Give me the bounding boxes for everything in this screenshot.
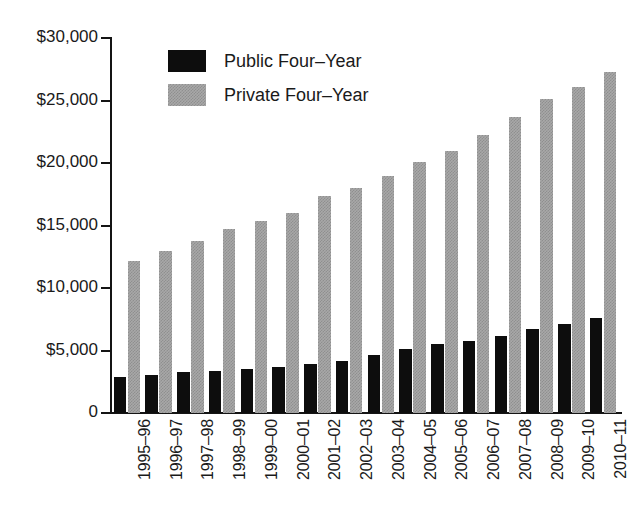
- y-tick-label-5000: $5,000: [0, 340, 98, 360]
- legend-label-private: Private Four–Year: [224, 85, 368, 106]
- y-tick-25000: [101, 100, 111, 102]
- bar-private-2008–09: [540, 99, 553, 413]
- bar-public-2010–11: [590, 318, 603, 413]
- y-tick-label-15000: $15,000: [0, 215, 98, 235]
- legend-item-private: Private Four–Year: [168, 78, 368, 112]
- y-tick-label-0: 0: [0, 402, 98, 422]
- bar-public-1999–00: [241, 369, 254, 413]
- bar-private-1998–99: [223, 229, 236, 413]
- bar-public-2006–07: [463, 341, 476, 414]
- x-tick-label-2009–10: 2009–10: [580, 419, 598, 480]
- bar-public-2001–02: [304, 364, 317, 413]
- x-tick-label-2005–06: 2005–06: [453, 419, 471, 480]
- bar-public-2004–05: [399, 349, 412, 413]
- bar-private-2004–05: [413, 162, 426, 413]
- bar-public-2008–09: [526, 329, 539, 413]
- y-tick-0: [101, 412, 111, 414]
- bar-public-2005–06: [431, 344, 444, 413]
- y-tick-10000: [101, 287, 111, 289]
- x-tick-label-1995–96: 1995–96: [136, 419, 154, 480]
- bar-private-2007–08: [509, 117, 522, 413]
- bar-public-1998–99: [209, 371, 222, 414]
- x-tick-label-1998–99: 1998–99: [231, 419, 249, 480]
- y-tick-30000: [101, 37, 111, 39]
- x-tick-label-2004–05: 2004–05: [422, 419, 440, 480]
- bar-private-1997–98: [191, 241, 204, 414]
- bar-public-1995–96: [114, 377, 127, 413]
- bar-public-2003–04: [368, 355, 381, 413]
- legend-item-public: Public Four–Year: [168, 44, 368, 78]
- bar-public-1997–98: [177, 372, 190, 413]
- y-tick-15000: [101, 225, 111, 227]
- bar-private-2001–02: [318, 196, 331, 414]
- y-tick-20000: [101, 162, 111, 164]
- y-tick-label-30000: $30,000: [0, 27, 98, 47]
- y-tick-label-10000: $10,000: [0, 277, 98, 297]
- bar-private-2009–10: [572, 87, 585, 413]
- legend-label-public: Public Four–Year: [224, 51, 361, 72]
- x-tick-label-2002–03: 2002–03: [358, 419, 376, 480]
- bar-private-2006–07: [477, 135, 490, 413]
- chart-legend: Public Four–Year Private Four–Year: [168, 44, 368, 112]
- bar-private-1995–96: [128, 261, 141, 414]
- bar-chart: 0$5,000$10,000$15,000$20,000$25,000$30,0…: [0, 0, 634, 530]
- x-tick-label-2007–08: 2007–08: [517, 419, 535, 480]
- x-tick-label-1997–98: 1997–98: [199, 419, 217, 480]
- y-tick-label-25000: $25,000: [0, 90, 98, 110]
- bar-public-2002–03: [336, 361, 349, 414]
- bar-public-1996–97: [145, 375, 158, 413]
- y-tick-5000: [101, 350, 111, 352]
- bar-private-1999–00: [255, 221, 268, 414]
- bar-public-2009–10: [558, 324, 571, 413]
- bar-private-2000–01: [286, 213, 299, 413]
- bar-private-2010–11: [604, 72, 617, 413]
- y-tick-label-20000: $20,000: [0, 152, 98, 172]
- gray-swatch-icon: [168, 84, 206, 106]
- x-tick-label-2006–07: 2006–07: [485, 419, 503, 480]
- x-tick-label-2010–11: 2010–11: [612, 419, 630, 479]
- x-tick-label-2001–02: 2001–02: [326, 419, 344, 480]
- x-tick-label-2008–09: 2008–09: [549, 419, 567, 480]
- bar-public-2000–01: [272, 367, 285, 413]
- bar-private-1996–97: [159, 251, 172, 414]
- bar-private-2002–03: [350, 188, 363, 413]
- bar-private-2003–04: [382, 176, 395, 413]
- bar-public-2007–08: [495, 336, 508, 414]
- x-tick-label-1996–97: 1996–97: [168, 419, 186, 480]
- x-tick-label-1999–00: 1999–00: [263, 419, 281, 480]
- black-swatch-icon: [168, 50, 206, 72]
- x-tick-label-2003–04: 2003–04: [390, 419, 408, 480]
- bar-private-2005–06: [445, 151, 458, 414]
- x-tick-label-2000–01: 2000–01: [295, 419, 313, 480]
